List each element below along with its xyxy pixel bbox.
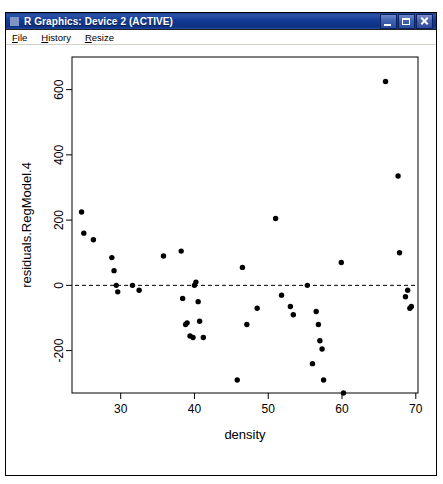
data-point: [114, 283, 119, 288]
plot-frame: [72, 57, 418, 393]
data-point: [273, 216, 278, 221]
data-point: [305, 283, 310, 288]
window-title: R Graphics: Device 2 (ACTIVE): [24, 16, 380, 27]
menu-item-resize-label: esize: [92, 32, 114, 43]
x-axis-label: density: [224, 427, 266, 442]
data-point: [193, 279, 198, 284]
plot-canvas: 3040506070-2000200400600densityresiduals…: [6, 45, 436, 475]
y-axis-tick-label: 0: [52, 282, 66, 289]
data-point: [403, 294, 408, 299]
window-controls: [380, 14, 433, 29]
y-axis-tick-label: 200: [52, 210, 66, 230]
data-point: [235, 377, 240, 382]
data-point: [184, 320, 189, 325]
data-point: [254, 305, 259, 310]
data-point: [201, 335, 206, 340]
data-point: [244, 322, 249, 327]
data-point: [405, 288, 410, 293]
data-point: [136, 288, 141, 293]
x-axis-tick-label: 40: [188, 402, 202, 416]
menu-item-file[interactable]: File: [12, 32, 27, 43]
r-graphics-icon: [9, 16, 20, 27]
scatter-series: [79, 79, 414, 396]
data-point: [316, 322, 321, 327]
y-axis-label: residuals.RegModel.4: [19, 162, 34, 288]
minimize-button[interactable]: [380, 14, 397, 29]
menu-item-file-label: ile: [18, 32, 28, 43]
data-point: [383, 79, 388, 84]
data-point: [197, 319, 202, 324]
data-point: [317, 338, 322, 343]
data-point: [109, 255, 114, 260]
x-axis-tick-label: 60: [335, 402, 349, 416]
y-axis-tick-label: 400: [52, 145, 66, 165]
data-point: [279, 292, 284, 297]
r-graphics-window: R Graphics: Device 2 (ACTIVE) File Histo…: [5, 12, 437, 476]
data-point: [91, 237, 96, 242]
menu-item-resize[interactable]: Resize: [85, 32, 114, 43]
data-point: [130, 283, 135, 288]
close-button[interactable]: [416, 14, 433, 29]
data-point: [310, 361, 315, 366]
menubar: File History Resize: [6, 30, 436, 45]
window-titlebar[interactable]: R Graphics: Device 2 (ACTIVE): [6, 13, 436, 30]
data-point: [115, 289, 120, 294]
menu-item-history-label: istory: [48, 32, 71, 43]
data-point: [190, 335, 195, 340]
plot-root: 3040506070-2000200400600densityresiduals…: [19, 57, 422, 442]
data-point: [409, 304, 414, 309]
x-axis-tick-label: 30: [114, 402, 128, 416]
data-point: [321, 377, 326, 382]
data-point: [79, 209, 84, 214]
data-point: [240, 265, 245, 270]
data-point: [81, 230, 86, 235]
data-point: [161, 253, 166, 258]
y-axis-tick-label: 600: [52, 79, 66, 99]
data-point: [319, 346, 324, 351]
data-point: [291, 312, 296, 317]
data-point: [397, 250, 402, 255]
data-point: [341, 390, 346, 395]
data-point: [180, 296, 185, 301]
data-point: [339, 260, 344, 265]
data-point: [288, 304, 293, 309]
x-axis-tick-label: 70: [409, 402, 423, 416]
maximize-button[interactable]: [398, 14, 415, 29]
data-point: [195, 299, 200, 304]
residuals-scatterplot: 3040506070-2000200400600densityresiduals…: [6, 45, 436, 475]
y-axis-tick-label: -200: [52, 338, 66, 362]
data-point: [111, 268, 116, 273]
data-point: [313, 309, 318, 314]
x-axis-tick-label: 50: [262, 402, 276, 416]
data-point: [178, 248, 183, 253]
data-point: [395, 173, 400, 178]
menu-item-history[interactable]: History: [41, 32, 71, 43]
